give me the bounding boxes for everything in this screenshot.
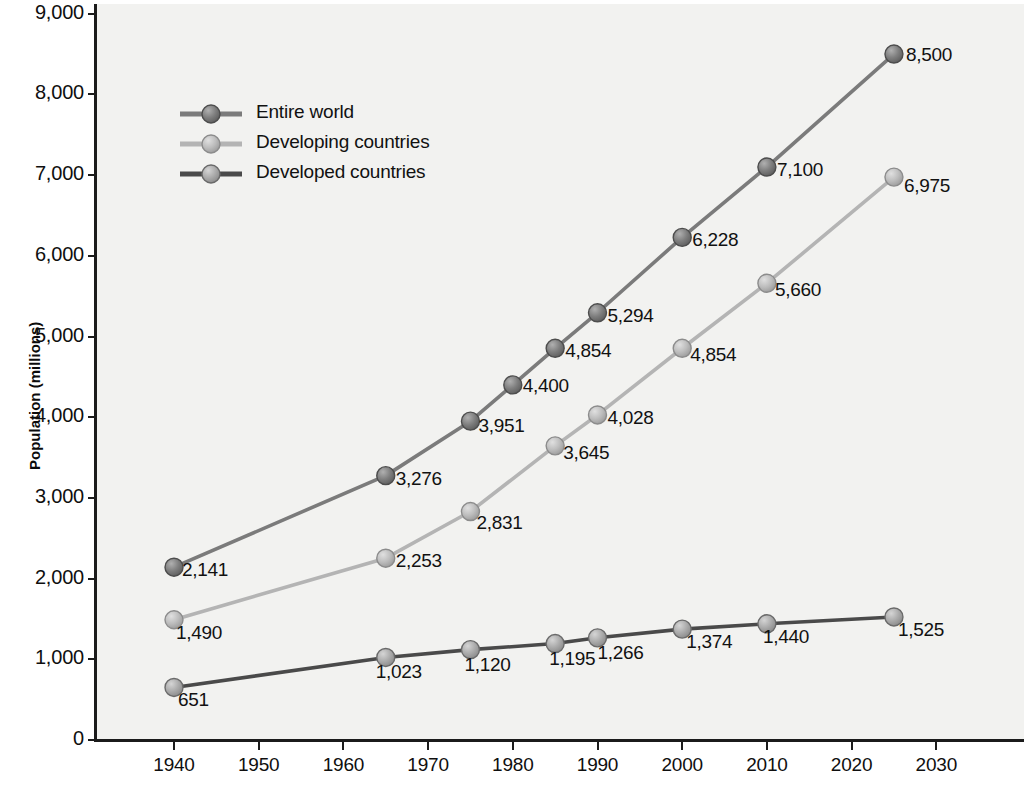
data-point-label: 2,831 (476, 512, 522, 534)
data-point-label: 2,141 (182, 559, 228, 581)
data-point-label: 5,660 (775, 279, 821, 301)
data-point-label: 1,490 (176, 622, 222, 644)
data-point-label: 5,294 (608, 305, 654, 327)
legend-label-entire-world: Entire world (256, 101, 354, 123)
data-point-label: 1,525 (898, 619, 944, 641)
data-point-label: 1,023 (376, 661, 422, 683)
data-point-marker[interactable] (165, 558, 183, 576)
data-point-label: 3,645 (563, 442, 609, 464)
data-point-marker[interactable] (504, 376, 522, 394)
data-point-marker[interactable] (589, 304, 607, 322)
data-point-marker[interactable] (546, 437, 564, 455)
data-point-label: 8,500 (906, 44, 952, 66)
chart-figure: Population (millions) 9,0008,0007,0006,0… (0, 0, 1024, 786)
data-point-label: 4,400 (523, 375, 569, 397)
data-point-label: 1,440 (763, 626, 809, 648)
data-point-label: 4,028 (608, 407, 654, 429)
data-point-label: 6,975 (904, 175, 950, 197)
legend-swatch-entire-world (178, 99, 244, 129)
data-point-marker[interactable] (546, 339, 564, 357)
data-point-label: 1,120 (464, 654, 510, 676)
legend-swatch-developed-countries (178, 159, 244, 189)
data-point-marker[interactable] (885, 45, 903, 63)
data-point-marker[interactable] (885, 168, 903, 186)
chart-canvas (0, 0, 1024, 786)
data-point-label: 2,253 (396, 550, 442, 572)
data-point-marker[interactable] (461, 412, 479, 430)
data-point-label: 1,266 (598, 642, 644, 664)
data-point-label: 4,854 (690, 344, 736, 366)
data-point-marker[interactable] (377, 549, 395, 567)
data-point-label: 1,374 (686, 631, 732, 653)
data-point-marker[interactable] (758, 158, 776, 176)
legend-label-developed-countries: Developed countries (256, 161, 425, 183)
data-point-label: 7,100 (777, 159, 823, 181)
data-point-marker[interactable] (673, 228, 691, 246)
data-point-marker[interactable] (377, 467, 395, 485)
data-point-label: 3,951 (478, 415, 524, 437)
data-point-label: 4,854 (565, 340, 611, 362)
legend-label-developing-countries: Developing countries (256, 131, 429, 153)
data-point-label: 651 (178, 689, 209, 711)
data-point-marker[interactable] (673, 339, 691, 357)
data-point-label: 1,195 (549, 648, 595, 670)
data-point-label: 6,228 (692, 229, 738, 251)
data-point-marker[interactable] (589, 406, 607, 424)
data-point-marker[interactable] (758, 274, 776, 292)
data-point-label: 3,276 (396, 468, 442, 490)
legend-swatch-developing-countries (178, 129, 244, 159)
series-line (174, 177, 894, 620)
